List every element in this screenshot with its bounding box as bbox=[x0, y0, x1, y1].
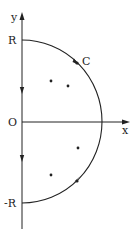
pole-point bbox=[50, 80, 53, 83]
x-axis-label: x bbox=[122, 124, 129, 137]
contour-label: C bbox=[82, 55, 90, 68]
top-radius-label: R bbox=[8, 34, 17, 47]
axis-direction-arrow-icon-lower bbox=[20, 155, 24, 162]
y-axis-arrow-icon bbox=[20, 12, 25, 20]
arc-arrow-head-upper bbox=[75, 61, 78, 64]
contour-diagram: y x O R -R C bbox=[0, 0, 136, 243]
y-axis-label: y bbox=[10, 11, 18, 24]
arc-arrow-head-lower bbox=[75, 179, 78, 182]
pole-point bbox=[77, 147, 80, 150]
origin-label: O bbox=[8, 116, 17, 129]
pole-point bbox=[50, 174, 53, 177]
pole-point bbox=[67, 85, 70, 88]
bottom-radius-label: -R bbox=[4, 197, 17, 210]
axis-direction-arrow-icon-upper bbox=[20, 87, 24, 94]
